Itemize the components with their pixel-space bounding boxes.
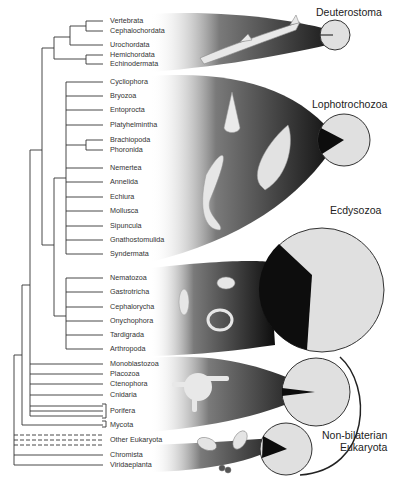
taxon-label-cycliophora: Cycliophora xyxy=(110,78,148,85)
taxon-label-phoronida: Phoronida xyxy=(110,146,143,153)
taxon-label-mycota: Mycota xyxy=(110,421,133,428)
ecdysozoa-band xyxy=(150,261,275,356)
taxon-label-gnathostomulida: Gnathostomulida xyxy=(110,236,164,243)
group-label-non-bilaterian: Non-bilaterian xyxy=(322,430,387,442)
taxon-label-annelida: Annelida xyxy=(110,178,138,185)
taxon-label-hemichordata: Hemichordata xyxy=(110,51,155,58)
taxon-label-cephalorycha: Cephalorycha xyxy=(110,303,154,310)
taxon-label-sipuncula: Sipuncula xyxy=(110,222,142,229)
taxon-label-viridaeplanta: Viridaeplanta xyxy=(110,461,152,468)
taxon-label-vertebrata: Vertebrata xyxy=(110,17,143,24)
taxon-label-echinodermata: Echinodermata xyxy=(110,60,158,67)
taxon-label-entoprocta: Entoprocta xyxy=(110,106,145,113)
taxon-label-syndermata: Syndermata xyxy=(110,250,149,257)
pie-nonbilaterian-animals xyxy=(282,358,350,426)
taxon-label-tardigrada: Tardigrada xyxy=(110,331,144,338)
group-label-eukaryota: Eukaryota xyxy=(340,442,387,454)
taxon-label-gastrotricha: Gastrotricha xyxy=(110,288,149,295)
taxon-label-nematozoa: Nematozoa xyxy=(110,274,147,281)
group-label-lophotrochozoa: Lophotrochozoa xyxy=(312,99,387,111)
taxon-label-brachiopoda: Brachiopoda xyxy=(110,136,150,143)
taxon-label-cephalochordata: Cephalochordata xyxy=(110,27,165,34)
taxon-label-other-eukaryota: Other Eukaryota xyxy=(110,436,162,443)
taxon-label-nemertea: Nemertea xyxy=(110,164,142,171)
taxon-label-arthropoda: Arthropoda xyxy=(110,345,146,352)
pie-deuterostoma xyxy=(320,20,350,50)
taxon-label-urochordata: Urochordata xyxy=(110,41,150,48)
group-label-ecdysozoa: Ecdysozoa xyxy=(330,205,381,217)
other-eukaryota-dashed xyxy=(14,435,103,445)
taxon-label-platyhelmintha: Platyhelmintha xyxy=(110,121,157,128)
taxon-label-cnidaria: Cnidaria xyxy=(110,391,137,398)
taxon-label-placozoa: Placozoa xyxy=(110,370,140,377)
taxon-label-onychophora: Onychophora xyxy=(110,317,153,324)
taxon-label-monoblastozoa: Monoblastozoa xyxy=(110,360,159,367)
taxon-label-porifera: Porifera xyxy=(110,407,135,414)
taxon-label-echiura: Echiura xyxy=(110,193,134,200)
taxon-label-chromista: Chromista xyxy=(110,451,143,458)
taxon-label-ctenophora: Ctenophora xyxy=(110,380,148,387)
pie-other-eukaryota xyxy=(260,423,312,475)
taxon-label-bryozoa: Bryozoa xyxy=(110,92,136,99)
tree-branches xyxy=(14,21,106,465)
group-label-deuterostoma: Deuterostoma xyxy=(316,7,382,19)
taxon-label-mollusca: Mollusca xyxy=(110,207,138,214)
phylogeny-figure xyxy=(0,0,398,493)
pie-ecdysozoa xyxy=(259,228,384,352)
pie-lophotrochozoa xyxy=(318,114,370,166)
